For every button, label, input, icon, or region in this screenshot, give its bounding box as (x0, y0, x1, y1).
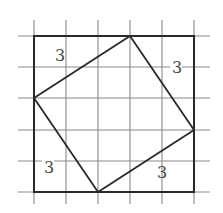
label-top-right: 3 (172, 58, 182, 77)
label-bottom-left: 3 (44, 158, 54, 177)
label-bottom-right: 3 (157, 163, 167, 182)
label-top-left: 3 (55, 46, 65, 65)
side-labels: 3 3 3 3 (42, 46, 182, 182)
diagram-canvas: 3 3 3 3 (0, 0, 223, 213)
